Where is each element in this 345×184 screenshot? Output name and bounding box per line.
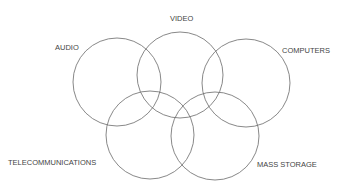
video-circle: [137, 32, 223, 118]
telecommunications-label: TELECOMMUNICATIONS: [8, 158, 96, 167]
telecommunications-circle: [106, 91, 194, 179]
computers-label: COMPUTERS: [282, 46, 330, 55]
mass-storage-label: MASS STORAGE: [257, 160, 317, 169]
audio-label: AUDIO: [55, 43, 79, 52]
venn-diagram: AUDIOVIDEOCOMPUTERSTELECOMMUNICATIONSMAS…: [0, 0, 345, 184]
video-label: VIDEO: [170, 14, 194, 23]
audio-circle: [73, 38, 161, 126]
mass-storage-circle: [171, 92, 259, 180]
computers-circle: [202, 39, 290, 127]
